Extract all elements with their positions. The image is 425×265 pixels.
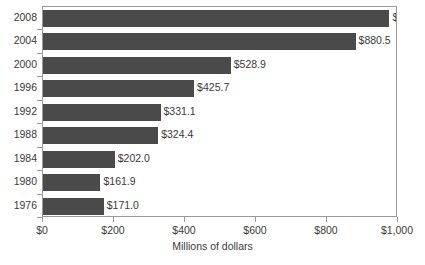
x-axis-title: Millions of dollars	[0, 240, 425, 252]
bar-row: $202.0	[43, 148, 396, 171]
x-tick-mark	[184, 217, 185, 222]
x-tick-label: $1,000	[381, 224, 413, 236]
x-tick-label: $200	[101, 224, 124, 236]
bar-row: $324.4	[43, 124, 396, 147]
bar	[43, 10, 389, 27]
bar-row: $880.5	[43, 30, 396, 53]
category-label-2000: 2000	[0, 58, 37, 70]
category-label-1992: 1992	[0, 105, 37, 117]
category-label-1988: 1988	[0, 128, 37, 140]
plot-area: $975.9$880.5$528.9$425.7$331.1$324.4$202…	[42, 6, 397, 217]
x-tick-label: $400	[172, 224, 195, 236]
bar-value-label: $171.0	[107, 197, 139, 214]
category-label-1980: 1980	[0, 175, 37, 187]
category-label-2008: 2008	[0, 11, 37, 23]
bar-value-label: $331.1	[164, 103, 196, 120]
x-tick-mark	[326, 217, 327, 222]
bar-row: $171.0	[43, 195, 396, 217]
x-tick-mark	[113, 217, 114, 222]
bar-row: $331.1	[43, 101, 396, 124]
bar	[43, 80, 194, 97]
bar	[43, 33, 356, 50]
bar-value-label: $202.0	[118, 150, 150, 167]
x-tick-label: $800	[314, 224, 337, 236]
x-tick-mark	[255, 217, 256, 222]
x-tick-mark	[397, 217, 398, 222]
bar-value-label: $975.9	[392, 9, 397, 26]
category-label-2004: 2004	[0, 34, 37, 46]
x-tick-mark	[42, 217, 43, 222]
bar-row: $528.9	[43, 54, 396, 77]
bar	[43, 104, 161, 121]
bar	[43, 198, 104, 215]
bar-value-label: $528.9	[234, 56, 266, 73]
x-tick-label: $0	[36, 224, 48, 236]
bar	[43, 174, 100, 191]
category-label-1984: 1984	[0, 152, 37, 164]
bar	[43, 127, 158, 144]
bar-value-label: $425.7	[197, 79, 229, 96]
bar-row: $425.7	[43, 77, 396, 100]
bar	[43, 57, 231, 74]
bar	[43, 151, 115, 168]
bar-value-label: $161.9	[103, 173, 135, 190]
bar-value-label: $324.4	[161, 126, 193, 143]
bar-row: $161.9	[43, 171, 396, 194]
x-tick-label: $600	[243, 224, 266, 236]
bar-row: $975.9	[43, 7, 396, 30]
category-label-1996: 1996	[0, 81, 37, 93]
bar-chart: 200820042000199619921988198419801976 $97…	[0, 0, 425, 265]
bar-value-label: $880.5	[359, 32, 391, 49]
category-label-1976: 1976	[0, 199, 37, 211]
